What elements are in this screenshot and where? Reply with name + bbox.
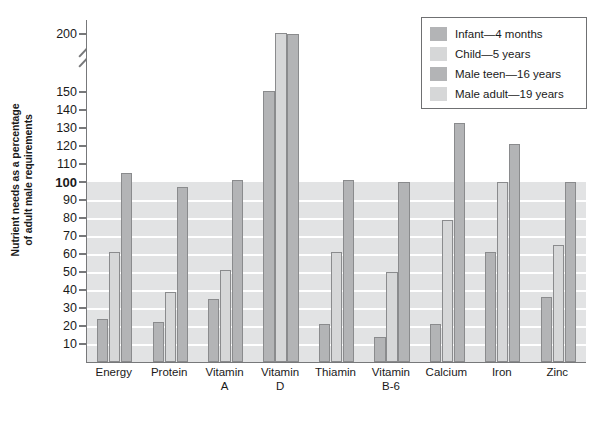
x-tick-label-line: Iron bbox=[474, 366, 529, 380]
y-tick-mark-120 bbox=[79, 145, 86, 147]
y-tick-mark-90 bbox=[79, 199, 86, 201]
legend-swatch-icon bbox=[430, 87, 447, 101]
x-axis-tick-labels: EnergyProteinVitaminAVitaminDThiaminVita… bbox=[86, 366, 585, 406]
bar bbox=[454, 123, 465, 362]
x-tick-label-line: A bbox=[197, 380, 252, 394]
y-tick-label-40: 40 bbox=[63, 283, 77, 297]
legend-label: Male teen—16 years bbox=[455, 68, 561, 80]
bar bbox=[263, 91, 274, 362]
y-tick-mark-70 bbox=[79, 235, 86, 237]
y-tick-label-80: 80 bbox=[63, 211, 77, 225]
y-tick-mark-40 bbox=[79, 289, 86, 291]
legend-label: Male adult—19 years bbox=[455, 88, 564, 100]
y-tick-label-10: 10 bbox=[63, 337, 77, 351]
y-tick-mark-200 bbox=[79, 33, 86, 35]
y-axis-tick-labels: 102030405060708090100110120130140150200 bbox=[0, 0, 86, 423]
bar bbox=[208, 299, 219, 362]
x-tick-label-vitamin-d: VitaminD bbox=[252, 366, 307, 393]
x-tick-label-protein: Protein bbox=[141, 366, 196, 380]
legend-swatch-icon bbox=[430, 47, 447, 61]
x-tick-label-zinc: Zinc bbox=[530, 366, 585, 380]
y-tick-label-100: 100 bbox=[55, 175, 77, 190]
bar bbox=[331, 252, 342, 362]
legend: Infant—4 monthsChild—5 yearsMale teen—16… bbox=[421, 17, 587, 109]
y-tick-mark-130 bbox=[79, 127, 86, 129]
nutrient-needs-bar-chart: Nutrient needs as a percentage of adult … bbox=[0, 0, 601, 423]
bar bbox=[553, 245, 564, 362]
x-tick-label-vitamin-a: VitaminA bbox=[197, 366, 252, 393]
bar bbox=[287, 34, 298, 362]
y-tick-mark-80 bbox=[79, 217, 86, 219]
bar bbox=[109, 252, 120, 362]
bar bbox=[374, 337, 385, 362]
legend-item[interactable]: Infant—4 months bbox=[430, 24, 578, 44]
x-tick-label-line: Energy bbox=[86, 366, 141, 380]
bar-group bbox=[309, 20, 364, 362]
bar bbox=[220, 270, 231, 362]
bar bbox=[165, 292, 176, 362]
x-tick-label-thiamin: Thiamin bbox=[308, 366, 363, 380]
bar bbox=[121, 173, 132, 362]
bar bbox=[398, 182, 409, 362]
y-tick-label-110: 110 bbox=[57, 157, 77, 171]
y-tick-mark-110 bbox=[79, 163, 86, 165]
bar bbox=[541, 297, 552, 362]
bar bbox=[509, 144, 520, 362]
bar bbox=[97, 319, 108, 362]
x-tick-label-line: Thiamin bbox=[308, 366, 363, 380]
y-tick-label-50: 50 bbox=[63, 265, 77, 279]
legend-swatch-icon bbox=[430, 67, 447, 81]
y-tick-mark-50 bbox=[79, 271, 86, 273]
x-tick-label-line: B-6 bbox=[363, 380, 418, 394]
x-tick-label-iron: Iron bbox=[474, 366, 529, 380]
bar bbox=[275, 33, 286, 362]
y-tick-label-20: 20 bbox=[63, 319, 77, 333]
bar bbox=[386, 272, 397, 362]
y-tick-label-200: 200 bbox=[56, 27, 77, 41]
bar bbox=[497, 182, 508, 362]
y-tick-label-90: 90 bbox=[63, 193, 77, 207]
legend-label: Child—5 years bbox=[455, 48, 530, 60]
bar-group bbox=[198, 20, 253, 362]
bar-group bbox=[87, 20, 142, 362]
y-tick-mark-60 bbox=[79, 253, 86, 255]
y-tick-label-140: 140 bbox=[56, 103, 77, 117]
x-tick-label-line: Calcium bbox=[419, 366, 474, 380]
legend-label: Infant—4 months bbox=[455, 28, 543, 40]
bar bbox=[430, 324, 441, 362]
x-tick-label-vitamin-b-6: VitaminB-6 bbox=[363, 366, 418, 393]
y-tick-mark-20 bbox=[79, 325, 86, 327]
x-tick-label-line: Zinc bbox=[530, 366, 585, 380]
legend-item[interactable]: Child—5 years bbox=[430, 44, 578, 64]
x-tick-label-energy: Energy bbox=[86, 366, 141, 380]
y-tick-mark-10 bbox=[79, 343, 86, 345]
legend-item[interactable]: Male teen—16 years bbox=[430, 64, 578, 84]
bar bbox=[485, 252, 496, 362]
legend-swatch-icon bbox=[430, 27, 447, 41]
x-tick-label-line: D bbox=[252, 380, 307, 394]
y-tick-label-150: 150 bbox=[56, 85, 77, 99]
x-tick-label-line: Vitamin bbox=[252, 366, 307, 380]
x-tick-label-line: Vitamin bbox=[363, 366, 418, 380]
bar-group bbox=[253, 20, 308, 362]
y-tick-mark-150 bbox=[79, 91, 86, 93]
y-tick-mark-140 bbox=[79, 109, 86, 111]
y-tick-label-30: 30 bbox=[63, 301, 77, 315]
bar-group bbox=[142, 20, 197, 362]
y-tick-label-70: 70 bbox=[63, 229, 77, 243]
x-tick-label-line: Protein bbox=[141, 366, 196, 380]
bar bbox=[343, 180, 354, 362]
y-tick-label-60: 60 bbox=[63, 247, 77, 261]
y-tick-label-120: 120 bbox=[56, 139, 77, 153]
bar bbox=[177, 187, 188, 362]
bar-group bbox=[364, 20, 419, 362]
x-tick-label-calcium: Calcium bbox=[419, 366, 474, 380]
x-tick-label-line: Vitamin bbox=[197, 366, 252, 380]
y-tick-mark-100 bbox=[79, 181, 86, 183]
y-tick-mark-30 bbox=[79, 307, 86, 309]
y-tick-label-130: 130 bbox=[56, 121, 77, 135]
bar bbox=[442, 220, 453, 362]
bar bbox=[565, 182, 576, 362]
legend-item[interactable]: Male adult—19 years bbox=[430, 84, 578, 104]
bar bbox=[319, 324, 330, 362]
